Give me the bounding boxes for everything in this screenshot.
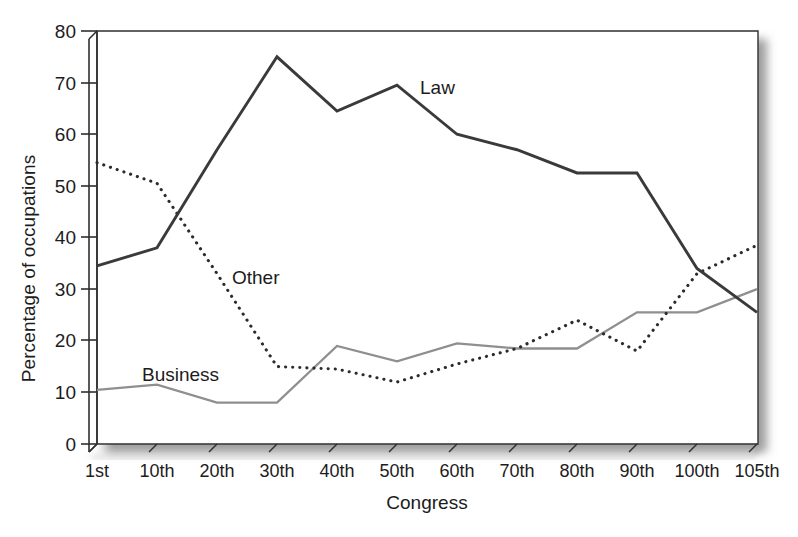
y-tick-label-30: 30	[30, 280, 76, 299]
x-tick-label-105th: 105th	[726, 462, 788, 480]
chart-container: Percentage of occupations Congress	[0, 0, 798, 537]
series-annotation-other: Other	[232, 268, 280, 287]
x-tick-label-60th: 60th	[430, 462, 484, 480]
series-annotation-law: Law	[420, 78, 455, 97]
y-axis-spine	[89, 31, 97, 452]
y-tick-label-10: 10	[30, 383, 76, 402]
x-tick-label-70th: 70th	[490, 462, 544, 480]
x-tick-label-100th: 100th	[666, 462, 728, 480]
x-tick-label-20th: 20th	[190, 462, 244, 480]
x-axis-spine	[89, 444, 758, 452]
x-tick-marks	[89, 444, 757, 452]
y-tick-label-0: 0	[30, 435, 76, 454]
y-tick-label-80: 80	[30, 22, 76, 41]
series-annotation-business: Business	[142, 365, 219, 384]
x-tick-label-30th: 30th	[250, 462, 304, 480]
x-tick-label-90th: 90th	[610, 462, 664, 480]
x-tick-label-40th: 40th	[310, 462, 364, 480]
y-tick-label-20: 20	[30, 331, 76, 350]
y-tick-label-50: 50	[30, 177, 76, 196]
y-tick-label-70: 70	[30, 74, 76, 93]
plot-area	[0, 0, 798, 537]
x-tick-label-50th: 50th	[370, 462, 424, 480]
y-tick-label-60: 60	[30, 125, 76, 144]
x-tick-label-10th: 10th	[130, 462, 184, 480]
y-tick-label-40: 40	[30, 228, 76, 247]
x-tick-label-1st: 1st	[72, 462, 122, 480]
x-tick-label-80th: 80th	[550, 462, 604, 480]
